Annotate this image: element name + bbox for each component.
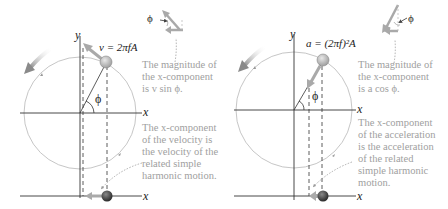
bottom-x-axis-label: x [143,189,148,204]
caption-component: The x-component of the acceleration is t… [358,117,436,189]
y-axis-label: y [290,27,295,42]
inset-angle-label: ϕ [147,12,153,24]
shm-ball [318,191,329,202]
particle-ball [100,56,112,68]
caption-magnitude: The magnitude of the x-component is v si… [142,59,217,95]
caption-component: The x-component of the velocity is the v… [142,122,218,182]
x-axis-label: x [357,102,362,117]
circle-direction-marker [332,154,335,157]
rotation-arrow-icon [30,48,52,68]
inset-angle-label: ϕ [408,12,414,24]
inset-vector-triangle [160,10,183,34]
acceleration-vector [311,66,320,82]
shm-arrowhead-icon [309,191,316,201]
shm-arrowhead-icon [85,192,92,200]
angle-arc [86,101,94,113]
angle-label: ϕ [312,89,318,104]
angle-label: ϕ [95,92,101,107]
bottom-x-axis-label: x [357,189,362,204]
vector-equation: a = (2πf)²A [306,37,356,49]
rotation-arrow-icon [244,46,266,66]
particle-ball [317,54,329,66]
caption-pointer [314,162,352,186]
inset-vector-triangle [382,5,407,35]
angle-arc [299,101,304,110]
shm-ball [102,191,113,202]
caption-pointer [102,163,142,188]
y-axis-label: y [75,28,80,43]
vector-equation: v = 2πfA [99,41,138,53]
x-axis-label: x [143,105,148,120]
caption-magnitude: The magnitude of the x-component is a co… [358,59,433,95]
